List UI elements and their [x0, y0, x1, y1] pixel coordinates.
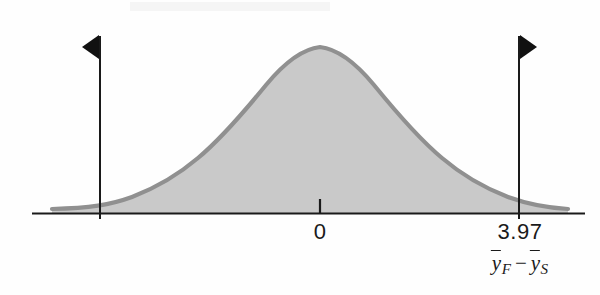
- y-bar-s-letter: y: [531, 251, 540, 275]
- critical-value-label: 3.97: [498, 219, 543, 245]
- right-critical-marker: [519, 35, 537, 219]
- distribution-figure: 0 3.97 yF−yS: [0, 0, 600, 295]
- y-bar-s: y: [531, 251, 540, 276]
- y-bar-s-subscript: S: [541, 261, 549, 277]
- axis-variable-label: yF−yS: [492, 251, 548, 278]
- left-marker-flag-icon: [82, 35, 99, 59]
- zero-tick-label: 0: [314, 219, 327, 245]
- y-bar-f: y: [492, 251, 501, 276]
- y-bar-f-letter: y: [492, 251, 501, 275]
- minus-operator: −: [515, 251, 527, 275]
- left-critical-marker: [82, 35, 100, 219]
- y-bar-f-subscript: F: [502, 261, 511, 277]
- right-marker-flag-icon: [520, 35, 537, 59]
